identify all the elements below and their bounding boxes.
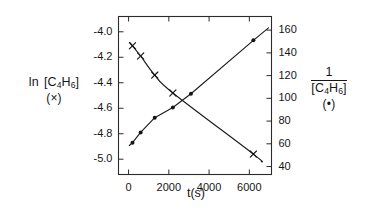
right-axis-ticks [267, 30, 272, 166]
right-tick-label: 140 [279, 46, 313, 58]
ln-series-markers [129, 43, 256, 158]
left-tick-label: -4.6 [71, 101, 113, 113]
right-tick-label: 160 [279, 23, 313, 35]
dot-marker [139, 130, 143, 134]
x-tick-label: 4000 [189, 181, 229, 193]
left-axis-ln-label: ln [29, 75, 39, 89]
right-tick-label: 80 [279, 114, 313, 126]
right-axis-bracket-open: [C [311, 81, 324, 95]
dot-marker [189, 92, 193, 96]
x-tick-label: 2000 [149, 181, 189, 193]
top-axis-ticks [129, 17, 250, 22]
x-marker [129, 43, 135, 49]
left-axis-ticks [119, 32, 124, 159]
fraction-numerator: 1 [311, 66, 346, 79]
left-axis-hydrogen: H [62, 75, 71, 89]
x-marker [152, 72, 158, 78]
dot-marker [130, 141, 134, 145]
right-tick-label: 60 [279, 137, 313, 149]
left-tick-label: -4.2 [71, 50, 113, 62]
x-tick-label: 6000 [229, 181, 269, 193]
right-axis-hydrogen: H [329, 81, 338, 95]
ln-concentration-curve [130, 43, 263, 162]
x-tick-label: 0 [109, 181, 149, 193]
reciprocal-fraction: 1 [C4H6] [311, 66, 346, 96]
left-tick-label: -4.4 [71, 76, 113, 88]
x-marker [170, 90, 176, 96]
x-marker [138, 53, 144, 59]
right-axis-bracket-close: ] [343, 81, 347, 95]
figure-canvas: ln[C4H6] (×) 1 [C4H6] (•) t(s) -4.0-4.2-… [0, 0, 368, 213]
right-tick-label: 100 [279, 91, 313, 103]
x-axis-ticks [129, 170, 250, 175]
left-tick-label: -4.0 [71, 25, 113, 37]
dot-marker [171, 105, 175, 109]
dot-marker [153, 116, 157, 120]
x-marker [250, 151, 256, 157]
left-tick-label: -4.8 [71, 127, 113, 139]
dot-marker [251, 38, 255, 42]
reciprocal-concentration-line [129, 28, 268, 146]
right-tick-label: 40 [279, 160, 313, 172]
left-axis-bracket-open: [C [44, 75, 57, 89]
fraction-denominator: [C4H6] [311, 82, 346, 96]
left-tick-label: -5.0 [71, 152, 113, 164]
right-tick-label: 120 [279, 69, 313, 81]
